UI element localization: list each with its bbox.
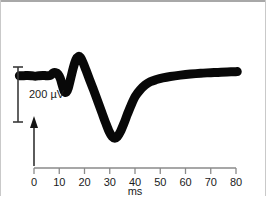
stimulus-arrow-group [30, 116, 38, 166]
scale-bar-label: 200 µV [29, 88, 65, 100]
x-axis-tick-label: 70 [205, 176, 217, 188]
x-axis-tick-label: 10 [53, 176, 65, 188]
stimulus-arrow-head [30, 116, 38, 128]
x-axis-ticks [34, 168, 236, 174]
x-axis-tick-label: 50 [154, 176, 166, 188]
x-axis-tick-label: 60 [179, 176, 191, 188]
x-axis-tick-label: 30 [104, 176, 116, 188]
x-axis-title: ms [128, 185, 143, 197]
x-axis-group: 01020304050607080 ms [31, 168, 242, 197]
evoked-potential-plot: 200 µV 01020304050607080 ms [0, 0, 266, 207]
x-axis-tick-label: 20 [78, 176, 90, 188]
x-axis-tick-label: 0 [31, 176, 37, 188]
figure-container: 200 µV 01020304050607080 ms [0, 0, 266, 207]
x-axis-tick-label: 80 [230, 176, 242, 188]
